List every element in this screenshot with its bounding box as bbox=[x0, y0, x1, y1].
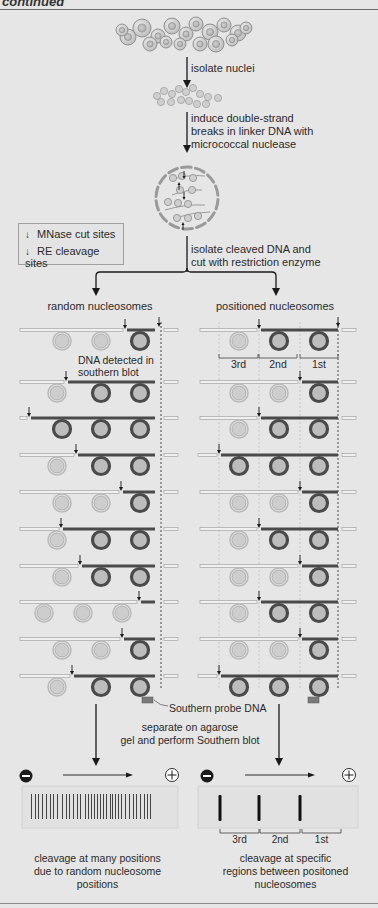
gel-lane-positioned bbox=[198, 786, 358, 828]
legend-item-re: ↓ RE cleavage sites bbox=[25, 245, 123, 269]
segment-label-1st: 1st bbox=[300, 358, 338, 371]
step-separate-1: separate on agarose bbox=[100, 721, 280, 734]
nucleosome-mapping-diagram bbox=[0, 0, 378, 908]
segment-label-2nd: 2nd bbox=[259, 358, 297, 371]
negative-electrode-right bbox=[201, 770, 214, 783]
re-arrow-icon: ↓ bbox=[25, 246, 30, 257]
probe-label: Southern probe DNA bbox=[169, 702, 266, 715]
positive-electrode-left bbox=[166, 769, 179, 782]
left-caption-1: cleavage at many positions bbox=[10, 852, 185, 865]
gel-label-3rd: 3rd bbox=[220, 833, 259, 846]
bottom-rule bbox=[0, 903, 378, 904]
southern-probe-left bbox=[142, 697, 153, 703]
right-panel-title: positioned nucleosomes bbox=[200, 300, 350, 313]
step-isolate-nuclei: isolate nuclei bbox=[191, 62, 255, 75]
isolated-nuclei-illustration bbox=[153, 84, 221, 107]
step-separate-2: gel and perform Southern blot bbox=[100, 734, 280, 747]
step-isolate-cleaved-2: cut with restriction enzyme bbox=[191, 256, 321, 269]
negative-electrode-left bbox=[20, 770, 33, 783]
legend-box: ↓ MNase cut sites ↓ RE cleavage sites bbox=[18, 223, 124, 265]
digested-nucleus-illustration bbox=[156, 167, 218, 230]
step-induce-breaks-2: breaks in linker DNA with bbox=[191, 125, 313, 138]
left-panel-title: random nucleosomes bbox=[40, 300, 160, 313]
step-induce-breaks-3: micrococcal nuclease bbox=[191, 138, 296, 151]
left-caption-3: positions bbox=[10, 878, 185, 891]
segment-label-3rd: 3rd bbox=[219, 358, 258, 371]
mnase-arrow-icon: ↓ bbox=[25, 229, 30, 240]
step-induce-breaks-1: induce double-strand bbox=[191, 112, 294, 125]
southern-probe-right bbox=[308, 697, 319, 703]
gel-label-1st: 1st bbox=[302, 833, 341, 846]
gel-label-2nd: 2nd bbox=[260, 833, 300, 846]
positioned-nucleosome-rows bbox=[198, 317, 356, 696]
right-caption-2: regions between positoned bbox=[198, 865, 373, 878]
step-isolate-cleaved-1: isolate cleaved DNA and bbox=[191, 243, 311, 256]
left-caption-2: due to random nucleosome bbox=[10, 865, 185, 878]
legend-item-mnase: ↓ MNase cut sites bbox=[25, 228, 115, 240]
right-caption-3: nucleosomes bbox=[198, 878, 373, 891]
cells-cluster-illustration bbox=[116, 17, 252, 52]
annotation-dna-detected-2: southern blot bbox=[78, 366, 139, 379]
right-caption-1: cleavage at specific bbox=[198, 852, 373, 865]
positive-electrode-right bbox=[343, 769, 356, 782]
